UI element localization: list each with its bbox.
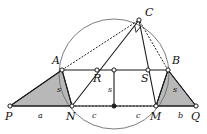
vertex-label-Q: Q (191, 110, 200, 123)
label-b: b (178, 111, 183, 120)
vertex-label-N: N (65, 110, 76, 123)
vertex-dot-N (70, 104, 74, 108)
vertex-label-A: A (51, 54, 60, 67)
chord-B-C (139, 20, 168, 70)
vertex-dot-C (137, 18, 141, 22)
vertex-dot-M (154, 104, 158, 108)
vertex-label-B: B (171, 54, 180, 67)
vertex-label-P: P (4, 110, 13, 123)
vertex-label-R: R (92, 72, 101, 85)
chord-N-C (72, 20, 139, 106)
label-s-middle: s (108, 85, 112, 94)
right-angle-marker-group (135, 26, 141, 33)
chord-A-C (62, 20, 139, 70)
vertex-label-C: C (145, 6, 154, 19)
label-s-right: s (173, 85, 177, 94)
vertex-dot-P (8, 104, 12, 108)
label-a: a (38, 111, 43, 120)
vertex-dot-O (112, 104, 116, 108)
geometry-canvas: PNMQARSBC accbsss (0, 0, 207, 134)
vertex-dot-B (166, 68, 170, 72)
vertex-label-M: M (149, 110, 162, 123)
shaded-regions (10, 70, 196, 106)
geometry-figure: PNMQARSBC accbsss (0, 0, 207, 134)
chord-M-C (139, 20, 156, 106)
vertex-dot-top-mid (112, 68, 116, 72)
vertex-dot-A (60, 68, 64, 72)
label-c-right: c (136, 111, 141, 120)
left-triangle-PAN (10, 70, 72, 106)
label-c-left: c (92, 111, 97, 120)
vertex-dot-Q (194, 104, 198, 108)
right-angle-marker-at-C (135, 26, 141, 33)
vertex-label-S: S (141, 72, 149, 85)
label-s-left: s (57, 85, 61, 94)
